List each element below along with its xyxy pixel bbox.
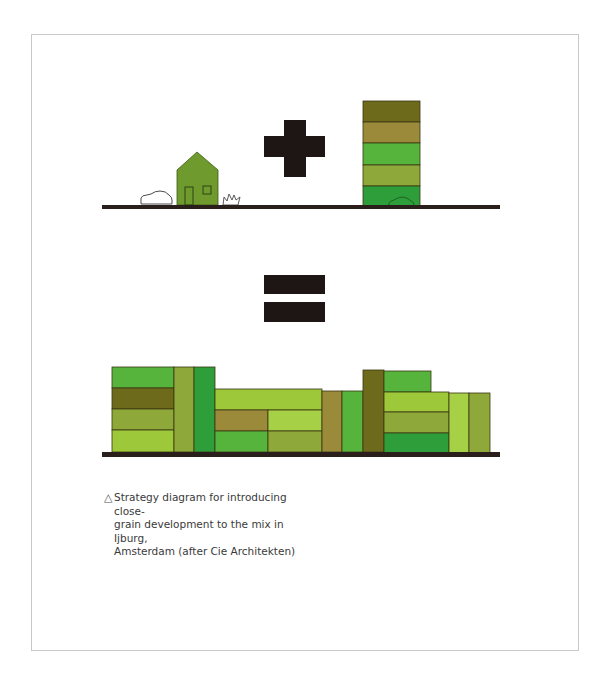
ground-line-bottom <box>102 452 500 457</box>
ground-line-top <box>102 205 500 209</box>
bottom-scene <box>112 367 490 453</box>
car-icon <box>141 191 172 204</box>
tower-block <box>363 101 420 207</box>
strategy-diagram <box>0 0 612 694</box>
triangle-marker-icon: △ <box>104 491 112 505</box>
figure-caption: △ Strategy diagram for introducing close… <box>104 491 304 559</box>
plus-icon <box>264 120 325 177</box>
house-icon <box>177 152 218 205</box>
caption-line-1: Strategy diagram for introducing close- <box>104 491 304 518</box>
equals-icon <box>264 275 325 322</box>
caption-line-3: Amsterdam (after Cie Architekten) <box>104 545 304 559</box>
grass-icon <box>223 194 240 205</box>
caption-line-2: grain development to the mix in Ijburg, <box>104 518 304 545</box>
